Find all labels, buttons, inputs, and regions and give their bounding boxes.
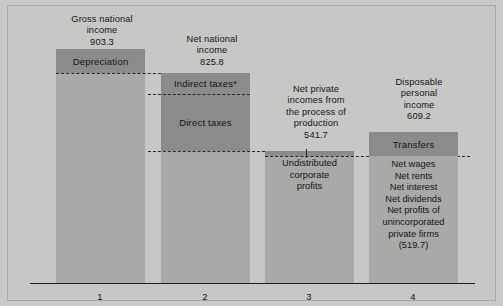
bar-4-title-line-1: Disposable [363, 77, 475, 88]
x-tick-1: 1 [80, 291, 120, 301]
bar-4-inner-line-2: Net rents [366, 171, 461, 183]
bar-1-caption: Gross national income 903.3 [46, 14, 158, 48]
x-axis-line [30, 283, 475, 284]
bar-2-band-direct-taxes[interactable]: Direct taxes [161, 94, 250, 151]
bar-3-title-line-4: production [260, 118, 372, 129]
bar-3-inner-line-1: Undistributed [265, 158, 354, 170]
bar-2-title-line-1: Net national [156, 34, 268, 45]
bar-1-title-line-1: Gross national [46, 14, 158, 25]
bar-4-inner-line-6: unincorporated [366, 217, 461, 229]
dash-bar1-to-bar2 [56, 73, 161, 74]
bar-1[interactable] [56, 49, 145, 283]
bar-4-caption: Disposable personal income 609.2 [363, 77, 475, 123]
x-tick-3: 3 [289, 291, 329, 301]
bar-2-band-indirect-taxes[interactable]: Indirect taxes* [161, 73, 250, 94]
bar-2-title-line-2: income [156, 45, 268, 56]
plot-area: Gross national income 903.3 Depreciation… [7, 5, 496, 301]
x-tick-2: 2 [185, 291, 225, 301]
bar-4-inner-line-5: Net profits of [366, 205, 461, 217]
figure-root: Gross national income 903.3 Depreciation… [0, 0, 503, 306]
bar-3-title-line-1: Net private [260, 84, 372, 95]
bar-1-band-depreciation[interactable]: Depreciation [56, 49, 145, 73]
bar-4-value: 609.2 [363, 111, 475, 122]
bar-2-value: 825.8 [156, 57, 268, 68]
bar-2-caption: Net national income 825.8 [156, 34, 268, 68]
x-tick-4: 4 [393, 291, 433, 301]
bar-1-band-label: Depreciation [73, 56, 129, 67]
bar-4-band-label: Transfers [393, 139, 435, 150]
dash-indirect-taxes-base [148, 94, 250, 95]
bar-3-title-line-2: incomes from [260, 95, 372, 106]
bar-3-inner-line-3: profits [265, 181, 354, 193]
bar-4-inner-line-1: Net wages [366, 159, 461, 171]
bar-4-inner-line-4: Net dividends [366, 194, 461, 206]
bar-2-band-label-indirect: Indirect taxes* [174, 78, 237, 89]
bar-3-inner-labels: Undistributed corporate profits [265, 158, 354, 193]
bar-4-band-transfers[interactable]: Transfers [369, 132, 458, 156]
bar-2-band-label-direct: Direct taxes [179, 117, 232, 128]
bar-4-inner-labels: Net wages Net rents Net interest Net div… [366, 159, 461, 252]
bar-4-inner-line-8: (519.7) [366, 240, 461, 252]
bar-4-title-line-2: personal [363, 88, 475, 99]
bar-4-inner-line-7: private firms [366, 229, 461, 241]
bar-1-title-line-2: income [46, 25, 158, 36]
bar-4-inner-line-3: Net interest [366, 182, 461, 194]
bar-3-title-line-3: the process of [260, 107, 372, 118]
bar-1-value: 903.3 [46, 37, 158, 48]
dash-bar2-to-bar3 [148, 151, 265, 152]
bar-3-caption: Net private incomes from the process of … [260, 84, 372, 141]
bar-3-value: 541.7 [260, 130, 372, 141]
bar-4-title-line-3: income [363, 100, 475, 111]
bar-3-inner-line-2: corporate [265, 170, 354, 182]
